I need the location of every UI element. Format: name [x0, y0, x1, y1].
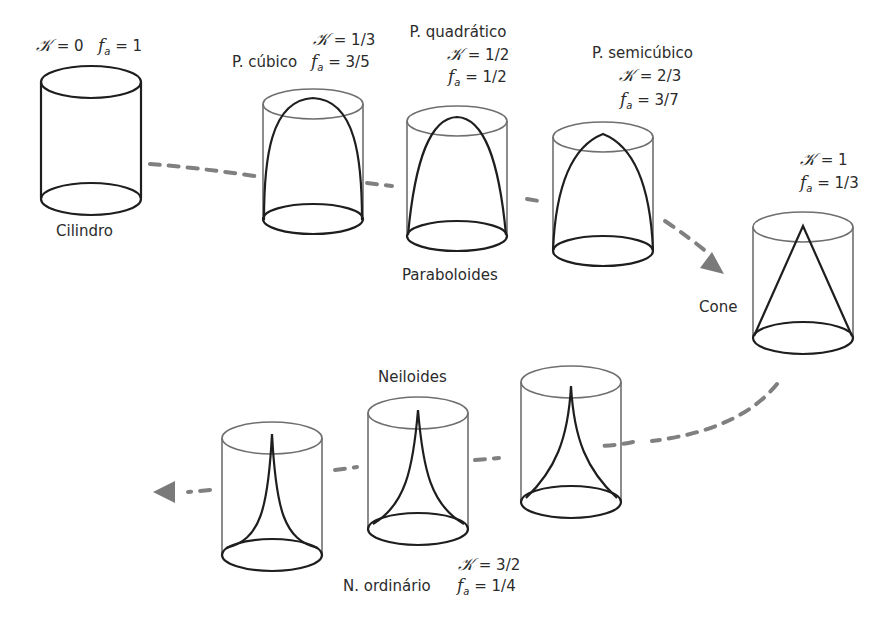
arrow-left-icon	[153, 481, 175, 503]
neiloide-1-shape	[521, 366, 621, 518]
progression-path	[150, 164, 777, 492]
cone-fa: fa = 1/3	[800, 173, 859, 198]
neiloides-label: Neiloides	[378, 368, 447, 386]
p-semicubico-shape	[553, 122, 653, 266]
p-quadratico-fa: fa = 1/2	[448, 67, 507, 92]
p-semicubico-k: 𝒦 = 2/3	[619, 66, 681, 85]
neiloide-2-shape	[368, 397, 468, 545]
p-quadratico-label: P. quadrático	[398, 23, 518, 41]
p-cubico-shape	[263, 89, 363, 234]
cilindro-label: Cilindro	[56, 222, 113, 240]
paraboloides-label: Paraboloides	[402, 266, 498, 284]
p-cubico-fa: fa = 3/5	[311, 52, 370, 77]
n-ordinario-shape	[222, 422, 322, 571]
cone-label: Cone	[699, 298, 737, 316]
p-quadratico-shape	[407, 106, 507, 251]
p-semicubico-fa: fa = 3/7	[620, 90, 679, 115]
cone-k: 𝒦 = 1	[800, 150, 848, 169]
p-cubico-label: P. cúbico	[232, 53, 297, 71]
cone-shape	[753, 212, 853, 354]
arrow-to-cone-icon	[700, 252, 724, 274]
p-quadratico-k: 𝒦 = 1/2	[447, 45, 509, 64]
n-ordinario-k: 𝒦 = 3/2	[458, 555, 520, 574]
cilindro-shape	[41, 66, 141, 215]
n-ordinario-label: N. ordinário	[343, 577, 431, 595]
p-cubico-k: 𝒦 = 1/3	[313, 30, 375, 49]
cilindro-formula: 𝒦 = 0 fa = 1	[36, 36, 142, 61]
n-ordinario-fa: fa = 1/4	[457, 576, 516, 601]
diagram-canvas	[0, 0, 888, 627]
p-semicubico-label: P. semicúbico	[592, 44, 693, 62]
